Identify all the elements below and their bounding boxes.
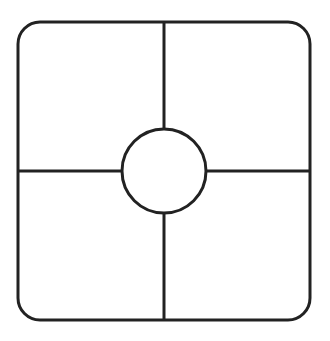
center-circle <box>122 129 206 213</box>
quadrant-diagram <box>0 0 330 341</box>
